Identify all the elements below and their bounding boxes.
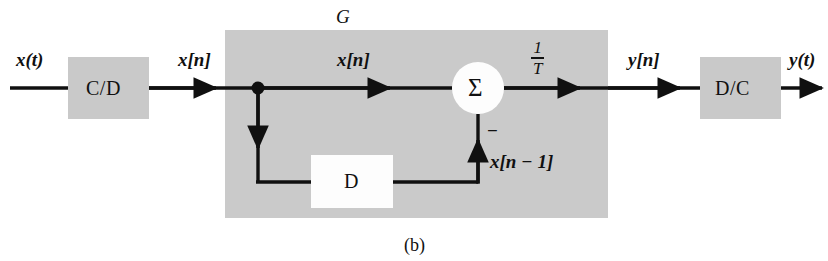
label-output-discrete: y[n] <box>628 50 660 69</box>
continuous-to-discrete-block-label: C/D <box>86 78 121 98</box>
label-delayed-signal: x[n − 1] <box>490 152 553 171</box>
system-region-label: G <box>336 7 350 26</box>
gain-one-over-T: 1 T <box>531 39 544 78</box>
label-inside-forward: x[n] <box>337 50 370 69</box>
summing-negative-sign: − <box>487 121 498 140</box>
block-diagram-figure: x(t) C/D x[n] G x[n] Σ 1 T y[n] D/C y(t)… <box>0 0 828 261</box>
summing-junction-symbol: Σ <box>468 75 483 100</box>
discrete-to-continuous-block-label: D/C <box>715 78 750 98</box>
gain-numerator: 1 <box>531 39 544 56</box>
system-region-G <box>225 30 608 218</box>
label-after-cd: x[n] <box>178 50 211 69</box>
label-output-continuous: y(t) <box>789 50 815 69</box>
delay-block-label: D <box>344 171 359 191</box>
diagram-canvas <box>0 0 828 261</box>
figure-caption: (b) <box>404 236 425 254</box>
label-input-continuous: x(t) <box>16 50 43 69</box>
gain-denominator: T <box>531 60 544 77</box>
